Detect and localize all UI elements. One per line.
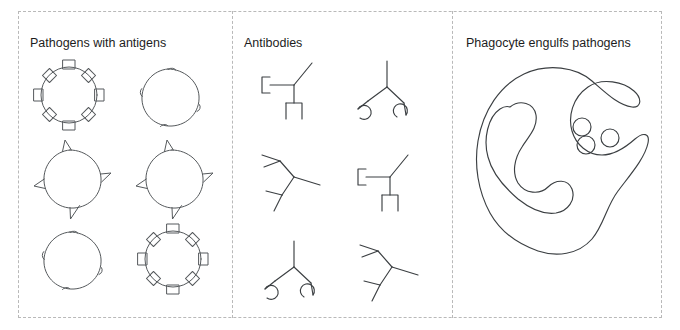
panel-title-phagocyte: Phagocyte engulfs pathogens <box>466 36 631 51</box>
pathogen-bump-antigens-2 <box>42 231 102 290</box>
antibodies-artwork <box>232 55 452 313</box>
pathogen-square-antigens-1 <box>34 60 104 130</box>
panel-phagocyte: Phagocyte engulfs pathogens <box>452 11 662 318</box>
pathogen-spike-antigens-2 <box>136 140 213 219</box>
engulfed-pathogen-2 <box>601 129 619 147</box>
antibody-fork-2 <box>360 245 418 301</box>
panel-title-pathogens: Pathogens with antigens <box>30 36 166 51</box>
phagocyte-artwork <box>452 55 662 313</box>
antibody-hook-1 <box>358 61 407 119</box>
panel-title-antibodies: Antibodies <box>244 36 302 51</box>
antibody-bracket-2 <box>358 155 408 211</box>
pathogen-spike-antigens-1 <box>34 140 111 219</box>
pathogen-square-antigens-2 <box>138 224 208 294</box>
antibody-hook-2 <box>265 241 314 299</box>
phagocyte-cell <box>477 68 649 254</box>
immune-response-figure: Pathogens with antigens <box>0 0 680 330</box>
phagocyte-vacuole <box>486 103 573 213</box>
pathogens-artwork <box>18 55 232 313</box>
clipped-top-caption <box>118 0 538 5</box>
engulfed-pathogen-1 <box>573 118 591 136</box>
panel-pathogens: Pathogens with antigens <box>18 11 232 318</box>
pathogen-bump-antigens-1 <box>140 68 200 127</box>
panel-antibodies: Antibodies <box>232 11 452 318</box>
antibody-bracket-1 <box>262 63 312 119</box>
antibody-fork-1 <box>262 155 320 211</box>
